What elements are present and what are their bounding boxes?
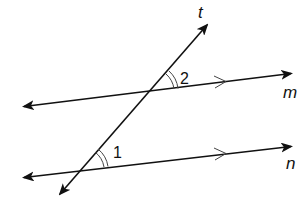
label-angle-2: 2 bbox=[180, 70, 189, 87]
angle-2-arc-icon bbox=[166, 71, 178, 89]
label-angle-1: 1 bbox=[113, 144, 122, 161]
label-t: t bbox=[198, 3, 204, 22]
line-t-transversal bbox=[60, 25, 207, 194]
line-m bbox=[24, 74, 291, 107]
line-n bbox=[24, 147, 291, 178]
label-m: m bbox=[283, 83, 297, 102]
diagram-canvas: t m n 2 1 bbox=[0, 0, 308, 201]
label-n: n bbox=[286, 154, 295, 173]
